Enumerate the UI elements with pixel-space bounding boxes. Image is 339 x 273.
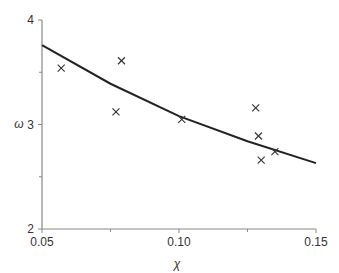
data-point-marker xyxy=(258,157,265,164)
y-tick-label: 3 xyxy=(27,118,34,132)
axes xyxy=(42,20,316,229)
scatter-chart: 0.050.100.15234 χ ω xyxy=(0,0,339,273)
axis-ticks: 0.050.100.15234 xyxy=(27,13,328,249)
data-point-marker xyxy=(252,104,259,111)
data-point-marker xyxy=(118,57,125,64)
x-tick-label: 0.10 xyxy=(167,235,191,249)
x-tick-label: 0.15 xyxy=(304,235,328,249)
fit-curve xyxy=(42,45,316,163)
y-tick-label: 2 xyxy=(27,222,34,236)
data-point-marker xyxy=(112,108,119,115)
y-tick-label: 4 xyxy=(27,13,34,27)
y-axis-label: ω xyxy=(14,117,23,131)
data-point-marker xyxy=(255,132,262,139)
x-tick-label: 0.05 xyxy=(30,235,54,249)
data-point-marker xyxy=(58,65,65,72)
x-axis-label: χ xyxy=(173,257,181,271)
